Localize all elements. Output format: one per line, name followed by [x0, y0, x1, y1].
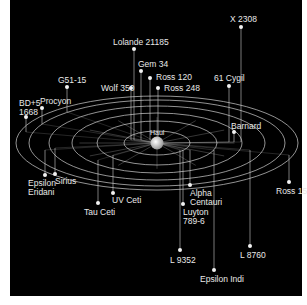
center-label: Haul: [150, 128, 164, 137]
star-dot-icon: [181, 202, 185, 206]
star-label-line: Lolande 21185: [113, 38, 169, 47]
star-label: Barnard: [231, 122, 261, 131]
star-dot-icon: [43, 173, 47, 177]
star-label: X 2308: [230, 15, 257, 24]
star-label: G51-15: [58, 76, 86, 85]
star-label-line: 1668: [19, 108, 41, 117]
star-dot-icon: [132, 47, 136, 51]
star-label: Wolf 350: [101, 84, 134, 93]
star-label-line: Eridani: [28, 188, 56, 197]
star-label: L 8760: [240, 251, 266, 260]
star-label: L 9352: [170, 256, 196, 265]
star-dot-icon: [188, 183, 192, 187]
star-label: BD+51668: [19, 99, 41, 117]
star-label-line: 61 Cygil: [214, 74, 245, 83]
star-dot-icon: [65, 85, 69, 89]
star-label-line: L 8760: [240, 251, 266, 260]
star-label: AlphaCentauri: [190, 189, 222, 207]
star-label-line: G51-15: [58, 76, 86, 85]
star-dot-icon: [227, 84, 231, 88]
star-dot-icon: [178, 248, 182, 252]
star-dot-icon: [156, 86, 160, 90]
star-label-line: Barnard: [231, 122, 261, 131]
star-label-line: X 2308: [230, 15, 257, 24]
star-dot-icon: [287, 180, 291, 184]
star-label-line: Gem 34: [138, 60, 168, 69]
star-label-line: Procyon: [40, 97, 71, 106]
star-label: 61 Cygil: [214, 74, 245, 83]
star-label: Gem 34: [138, 60, 168, 69]
star-label: Tau Ceti: [84, 208, 115, 217]
star-label-line: Ross 120: [156, 73, 192, 82]
star-label: EpsilonEridani: [28, 179, 56, 197]
sun-icon: [151, 137, 164, 150]
star-label-line: Wolf 350: [101, 84, 134, 93]
star-label-line: L 9352: [170, 256, 196, 265]
star-dot-icon: [148, 76, 152, 80]
star-label-line: UV Ceti: [112, 196, 141, 205]
star-label: Sirius: [55, 177, 76, 186]
star-label: Ross 120: [156, 73, 192, 82]
star-label: Ross 248: [164, 84, 200, 93]
star-label-line: Sirius: [55, 177, 76, 186]
star-label-line: Ross 248: [164, 84, 200, 93]
star-label-line: Epsilon Indi: [200, 275, 244, 284]
star-dot-icon: [212, 268, 216, 272]
star-label: Ross 154: [276, 187, 307, 196]
star-dot-icon: [139, 69, 143, 73]
star-map-panel: X 2308Lolande 21185Gem 34Ross 120Ross 24…: [10, 0, 302, 296]
star-label: Lolande 21185: [113, 38, 169, 47]
star-label: Epsilon Indi: [200, 275, 244, 284]
star-label-line: Centauri: [190, 198, 222, 207]
star-label-line: Tau Ceti: [84, 208, 115, 217]
star-label-line: 789-6: [183, 217, 209, 226]
star-label: Procyon: [40, 97, 71, 106]
star-label: Luyton789-6: [183, 208, 209, 226]
star-label: UV Ceti: [112, 196, 141, 205]
star-dot-icon: [248, 244, 252, 248]
star-dot-icon: [239, 25, 243, 29]
star-dot-icon: [96, 201, 100, 205]
star-label-line: Ross 154: [276, 187, 307, 196]
